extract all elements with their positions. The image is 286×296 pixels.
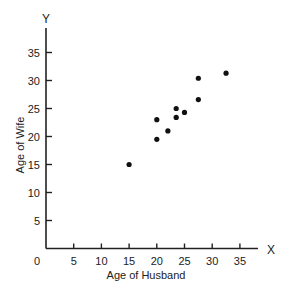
axes (46, 28, 258, 249)
data-point (165, 128, 170, 133)
y-tick-label: 10 (28, 187, 40, 199)
y-axis-letter: Y (42, 12, 50, 26)
y-tick-label: 20 (28, 131, 40, 143)
x-axis-ticks: 5101520253035 (71, 244, 246, 268)
data-point (174, 106, 179, 111)
data-point (182, 110, 187, 115)
y-tick-label: 30 (28, 75, 40, 87)
x-axis-letter: X (267, 243, 275, 257)
scatter-plot: 5101520253035 5101520253035 0 Y X Age of… (0, 0, 286, 296)
x-tick-label: 25 (178, 255, 190, 267)
x-tick-label: 30 (206, 255, 218, 267)
data-point (154, 117, 159, 122)
x-tick-label: 35 (234, 255, 246, 267)
x-axis-title: Age of Husband (107, 269, 186, 281)
y-axis-ticks: 5101520253035 (28, 47, 52, 227)
data-point (174, 115, 179, 120)
data-points (127, 71, 229, 167)
data-point (127, 162, 132, 167)
y-tick-label: 25 (28, 103, 40, 115)
data-point (196, 76, 201, 81)
y-tick-label: 35 (28, 47, 40, 59)
y-tick-label: 15 (28, 159, 40, 171)
data-point (154, 137, 159, 142)
x-tick-label: 5 (71, 255, 77, 267)
origin-label: 0 (34, 255, 40, 267)
y-axis-title: Age of Wife (14, 117, 26, 174)
data-point (196, 97, 201, 102)
data-point (223, 71, 228, 76)
x-tick-label: 10 (95, 255, 107, 267)
x-tick-label: 20 (151, 255, 163, 267)
x-tick-label: 15 (123, 255, 135, 267)
y-tick-label: 5 (34, 215, 40, 227)
